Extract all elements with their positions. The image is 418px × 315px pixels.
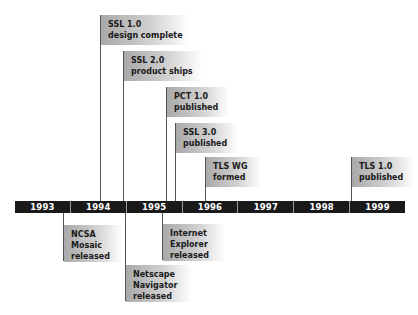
event-ssl3-published: SSL 3.0 published — [176, 123, 238, 153]
timeline-year-bar: 1993 1994 1995 1996 1997 1998 1999 — [15, 201, 405, 213]
event-pct1-published: PCT 1.0 published — [167, 87, 229, 117]
event-line1: NCSA — [71, 229, 108, 240]
year-1993: 1993 — [15, 201, 71, 213]
event-desc: published — [359, 172, 400, 183]
event-title: SSL 1.0 — [108, 19, 175, 30]
event-internet-explorer-released: Internet Explorer released — [163, 224, 225, 261]
event-line3: released — [133, 291, 178, 302]
year-1995: 1995 — [127, 201, 183, 213]
event-line2: Navigator — [133, 280, 178, 291]
event-ssl2-product-ships: SSL 2.0 product ships — [124, 51, 202, 81]
event-tls1-published: TLS 1.0 published — [352, 157, 414, 187]
event-line1: Netscape — [133, 269, 178, 280]
event-line3: released — [170, 250, 211, 261]
event-title: SSL 3.0 — [183, 127, 224, 138]
year-1997: 1997 — [238, 201, 294, 213]
event-desc: design complete — [108, 30, 175, 41]
event-title: TLS 1.0 — [359, 161, 400, 172]
event-title: TLS WG — [213, 161, 247, 172]
event-desc: formed — [213, 172, 247, 183]
year-1998: 1998 — [294, 201, 350, 213]
event-netscape-navigator-released: Netscape Navigator released — [126, 265, 192, 302]
event-ncsa-mosaic-released: NCSA Mosaic released — [64, 225, 122, 262]
event-desc: product ships — [131, 66, 188, 77]
year-1996: 1996 — [183, 201, 239, 213]
event-title: PCT 1.0 — [174, 91, 215, 102]
event-title: SSL 2.0 — [131, 55, 188, 66]
event-desc: published — [174, 102, 215, 113]
event-ssl1-design-complete: SSL 1.0 design complete — [101, 15, 189, 45]
year-1999: 1999 — [350, 201, 405, 213]
event-desc: published — [183, 138, 224, 149]
event-line2: Mosaic — [71, 240, 108, 251]
year-1994: 1994 — [71, 201, 127, 213]
event-line3: released — [71, 251, 108, 262]
event-line1: Internet — [170, 228, 211, 239]
event-line2: Explorer — [170, 239, 211, 250]
event-tls-wg-formed: TLS WG formed — [206, 157, 261, 187]
